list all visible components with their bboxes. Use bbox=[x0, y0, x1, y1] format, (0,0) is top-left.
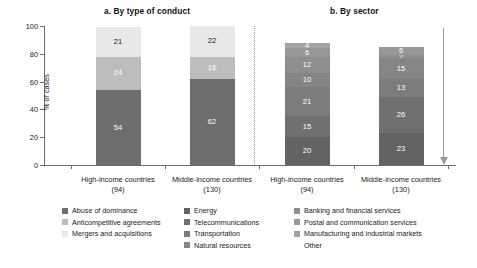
bar-segment[interactable]: 15 bbox=[285, 116, 330, 137]
bar-segment[interactable]: 10 bbox=[285, 73, 330, 87]
legend-label: Postal and communication services bbox=[304, 218, 417, 227]
x-tick-mark bbox=[259, 165, 260, 169]
legend-label: Manufacturing and industrial markets bbox=[304, 229, 422, 238]
legend-item[interactable]: Other bbox=[294, 241, 472, 250]
x-category-name: Middle-income countries bbox=[172, 175, 252, 184]
legend-label: Natural resources bbox=[194, 241, 251, 250]
bar-segment[interactable]: 15 bbox=[379, 58, 424, 79]
x-tick-mark bbox=[448, 165, 449, 169]
legend-swatch bbox=[184, 242, 190, 248]
bar-segment[interactable]: 24 bbox=[96, 57, 141, 90]
legend-item[interactable]: Energy bbox=[184, 206, 294, 215]
bar-segment[interactable] bbox=[379, 26, 424, 47]
y-tick-label: 0 bbox=[34, 161, 38, 170]
bar-segment[interactable]: 62 bbox=[190, 79, 235, 165]
panel-a-title: a. By type of conduct bbox=[104, 6, 190, 16]
stacked-bar[interactable]: 461210211520 bbox=[285, 26, 330, 165]
legend-label: Banking and financial services bbox=[304, 206, 401, 215]
x-category-count: (94) bbox=[270, 185, 344, 194]
legend-item[interactable]: Telecommunications bbox=[184, 218, 294, 227]
bar-segment-value: 62 bbox=[208, 118, 216, 126]
bar-segment-value: 6 bbox=[305, 49, 309, 57]
y-tick-mark bbox=[40, 26, 44, 27]
y-tick-label: 60 bbox=[30, 77, 38, 86]
bar-segment-value: 10 bbox=[303, 76, 311, 84]
legend-label: Energy bbox=[194, 206, 217, 215]
legend-label: Anticompetitive agreements bbox=[72, 218, 161, 227]
chart-figure: a. By type of conduct b. By sector 02040… bbox=[0, 0, 477, 268]
x-category-count: (94) bbox=[81, 185, 155, 194]
bar-segment-value: 22 bbox=[208, 37, 216, 45]
legend-swatch bbox=[294, 231, 300, 237]
bar-segment-value: 20 bbox=[303, 147, 311, 155]
bar-segment-value: 15 bbox=[303, 123, 311, 131]
bar-segment[interactable] bbox=[285, 26, 330, 43]
bar-segment-value: 21 bbox=[114, 38, 122, 46]
y-tick-label: 80 bbox=[30, 49, 38, 58]
panel-b-title: b. By sector bbox=[330, 6, 379, 16]
stacked-bar[interactable]: 212454 bbox=[96, 27, 141, 165]
bar-segment[interactable]: 6 bbox=[285, 48, 330, 56]
legend-swatch bbox=[294, 208, 300, 214]
x-category-count: (130) bbox=[172, 185, 252, 194]
bar-segment[interactable]: 6 bbox=[379, 47, 424, 55]
x-category-label: High-income countries(94) bbox=[81, 175, 155, 194]
bar-segment[interactable]: 12 bbox=[285, 57, 330, 74]
stacked-bar[interactable]: 221662 bbox=[190, 26, 235, 165]
stacked-bar[interactable]: 6215132623 bbox=[379, 26, 424, 165]
legend-swatch bbox=[184, 208, 190, 214]
bar-segment-value: 23 bbox=[397, 145, 405, 153]
bar-segment[interactable]: 54 bbox=[96, 90, 141, 165]
plot-area: 020406080100 % of cases 2124542216624612… bbox=[44, 26, 456, 165]
legend-label: Transportation bbox=[194, 229, 240, 238]
bar-segment-value: 15 bbox=[397, 65, 405, 73]
bar-segment[interactable]: 26 bbox=[379, 97, 424, 133]
x-category-label: Middle-income countries(130) bbox=[361, 175, 441, 194]
x-category-label: High-income countries(94) bbox=[270, 175, 344, 194]
y-tick-label: 100 bbox=[26, 22, 38, 31]
x-tick-mark bbox=[165, 165, 166, 169]
legend-swatch bbox=[294, 219, 300, 225]
bar-segment[interactable]: 21 bbox=[285, 87, 330, 116]
legend-label: Other bbox=[304, 241, 322, 250]
legend-item[interactable]: Manufacturing and industrial markets bbox=[294, 229, 472, 238]
legend-item[interactable]: Anticompetitive agreements bbox=[62, 218, 184, 227]
bar-segment[interactable]: 21 bbox=[96, 27, 141, 56]
bar-segment-value: 16 bbox=[208, 64, 216, 72]
bar-segment[interactable]: 16 bbox=[190, 57, 235, 79]
bar-segment[interactable]: 22 bbox=[190, 26, 235, 57]
panel-divider bbox=[254, 26, 255, 165]
legend-item[interactable]: Abuse of dominance bbox=[62, 206, 184, 215]
bar-segment-value: 12 bbox=[303, 61, 311, 69]
legend-label: Mergers and acquisitions bbox=[72, 229, 152, 238]
bar-segment[interactable]: 13 bbox=[379, 79, 424, 97]
y-tick-label: 40 bbox=[30, 105, 38, 114]
x-category-name: Middle-income countries bbox=[361, 175, 441, 184]
legend-item[interactable]: Mergers and acquisitions bbox=[62, 229, 184, 238]
legend-swatch bbox=[184, 219, 190, 225]
y-tick-mark bbox=[40, 137, 44, 138]
legend-item[interactable]: Banking and financial services bbox=[294, 206, 472, 215]
bar-segment-value: 26 bbox=[397, 111, 405, 119]
legend-item[interactable]: Natural resources bbox=[184, 241, 294, 250]
y-axis-title: % of cases bbox=[42, 74, 51, 110]
legend-swatch bbox=[62, 219, 68, 225]
legend-item[interactable]: Postal and communication services bbox=[294, 218, 472, 227]
bar-segment[interactable]: 23 bbox=[379, 133, 424, 165]
bar-segment-value: 54 bbox=[114, 124, 122, 132]
bar-segment-value: 21 bbox=[303, 98, 311, 106]
bar-segment-value: 13 bbox=[397, 84, 405, 92]
bar-segment-value: 6 bbox=[399, 47, 403, 55]
bar-segment[interactable]: 20 bbox=[285, 137, 330, 165]
bar-segment-value: 24 bbox=[114, 69, 122, 77]
legend-swatch bbox=[62, 208, 68, 214]
legend-label: Abuse of dominance bbox=[72, 206, 138, 215]
legend-swatch bbox=[294, 242, 300, 248]
legend-label: Telecommunications bbox=[194, 218, 259, 227]
x-category-name: High-income countries bbox=[81, 175, 155, 184]
legend-swatch bbox=[62, 231, 68, 237]
x-tick-mark bbox=[354, 165, 355, 169]
legend-swatch bbox=[184, 231, 190, 237]
downward-arrow-icon bbox=[443, 28, 444, 158]
legend-item[interactable]: Transportation bbox=[184, 229, 294, 238]
